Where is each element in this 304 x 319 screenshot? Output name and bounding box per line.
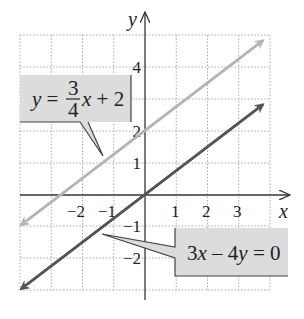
coordinate-graph: x y −2 −1 1 2 3 4 2 1 −1 −2 y = 3 4 x + …	[0, 0, 304, 319]
svg-text:x + 2: x + 2	[81, 87, 124, 111]
svg-text:1: 1	[133, 154, 142, 173]
svg-text:−1: −1	[123, 217, 141, 236]
svg-text:4: 4	[68, 98, 79, 122]
svg-text:3: 3	[68, 76, 79, 100]
svg-text:−2: −2	[123, 249, 141, 268]
svg-text:3x – 4y = 0: 3x – 4y = 0	[187, 241, 281, 265]
svg-text:1: 1	[171, 202, 180, 221]
svg-text:2: 2	[202, 202, 211, 221]
svg-text:4: 4	[133, 58, 142, 77]
equation-label-1: y = 3 4 x + 2	[20, 75, 131, 156]
svg-text:y =: y =	[30, 87, 58, 111]
x-axis-label: x	[278, 200, 288, 222]
x-tick-labels: −2 −1 1 2 3	[67, 202, 242, 221]
y-axis-label: y	[126, 8, 137, 31]
svg-text:3: 3	[233, 202, 242, 221]
svg-text:−2: −2	[67, 202, 85, 221]
